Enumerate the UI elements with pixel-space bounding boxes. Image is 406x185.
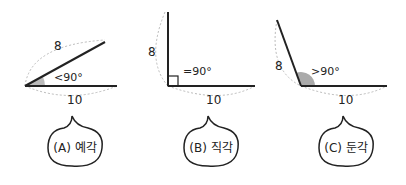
panel-obtuse: 8 >90° 10 (C) 둔각: [275, 20, 387, 166]
caption: (B) 직각: [189, 141, 232, 155]
base-label: 10: [338, 93, 353, 107]
panel-acute: 8 <90° 10 (A) 예각: [25, 39, 117, 166]
side-label: 8: [54, 39, 62, 53]
panel-right: 8 =90° 10 (B) 직각: [148, 12, 255, 166]
side-arc: [156, 12, 168, 86]
side-label: 8: [275, 59, 283, 73]
angle-diagram: 8 <90° 10 (A) 예각 8 =90° 10 (B) 직각 8 >90°…: [0, 0, 406, 185]
caption: (A) 예각: [53, 141, 96, 155]
angle-label: >90°: [311, 65, 340, 78]
base-label: 10: [206, 93, 221, 107]
caption: (C) 둔각: [324, 141, 368, 155]
side-label: 8: [148, 45, 156, 59]
angle-label: <90°: [54, 71, 83, 84]
angle-label: =90°: [183, 65, 212, 78]
side-line: [277, 20, 301, 86]
base-label: 10: [67, 93, 82, 107]
right-angle-marker: [168, 76, 178, 86]
